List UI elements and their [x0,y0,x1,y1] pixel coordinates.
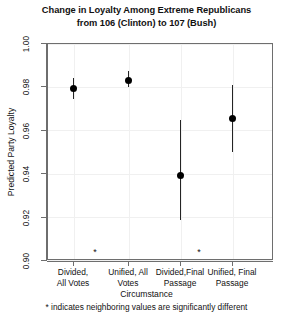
gridline-horizontal [48,174,272,175]
y-axis-tick-label: 0.92 [21,205,31,231]
chart-title-line-2: from 106 (Clinton) to 107 (Bush) [0,17,293,30]
gridline-vertical [181,44,182,259]
gridline-horizontal [48,44,272,45]
plot-area [47,43,273,260]
x-axis-label: Circumstance [0,289,293,299]
chart-title: Change in Loyalty Among Extreme Republic… [0,4,293,29]
y-axis-tick-label: 0.90 [21,248,31,274]
y-axis-tick-label: 1.00 [21,31,31,57]
y-axis-tick [41,130,46,131]
y-axis-tick [41,43,46,44]
x-axis-tick [73,261,74,266]
x-axis-tick [128,261,129,266]
data-point-4 [229,115,236,122]
y-axis-tick [41,260,46,261]
chart-title-line-1: Change in Loyalty Among Extreme Republic… [0,4,293,17]
x-tick-label-line: Passage [195,278,269,289]
gridline-horizontal [48,130,272,131]
gridline-vertical [233,44,234,259]
gridline-horizontal [48,217,272,218]
gridline-horizontal [48,87,272,88]
y-axis-label: Predicted Party Loyalty [6,72,16,232]
data-point-3 [177,172,184,179]
significance-asterisk-1: * [90,248,100,257]
chart-footnote: * indicates neighboring values are signi… [0,302,293,312]
y-axis-tick-label: 0.96 [21,118,31,144]
x-axis-line [47,261,273,262]
x-tick-label-line: Unified, Final [195,267,269,278]
data-point-2 [125,77,132,84]
y-axis-line [46,43,47,261]
y-axis-tick [41,86,46,87]
chart-figure: Change in Loyalty Among Extreme Republic… [0,0,293,319]
x-axis-tick [232,261,233,266]
error-bar-3 [180,120,181,220]
significance-asterisk-2: * [194,248,204,257]
data-point-1 [70,85,77,92]
y-axis-tick-label: 0.98 [21,74,31,100]
gridline-vertical [74,44,75,259]
y-axis-tick-label: 0.94 [21,161,31,187]
y-axis-tick [41,217,46,218]
x-axis-tick [180,261,181,266]
y-axis-tick [41,173,46,174]
x-axis-tick-label-4: Unified, Final Passage [195,267,269,289]
